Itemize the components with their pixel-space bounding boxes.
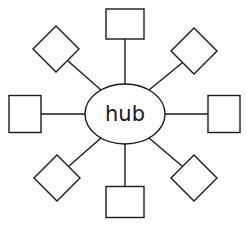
- node-top-square: [106, 9, 144, 39]
- hub-node: hub: [85, 84, 165, 144]
- hub-label: hub: [105, 102, 145, 126]
- edge-hub-to-bottom-left: [69, 138, 101, 166]
- edge-hub-to-top-right: [149, 63, 182, 90]
- node-bottom-square: [106, 187, 144, 218]
- node-right-square: [208, 96, 240, 133]
- edge-hub-to-top-left: [68, 61, 101, 90]
- node-left-square: [9, 96, 41, 133]
- star-topology-diagram: hub: [0, 0, 247, 228]
- edge-hub-to-bottom-right: [149, 138, 182, 166]
